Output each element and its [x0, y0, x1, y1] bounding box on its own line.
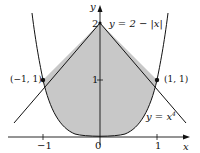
abs-curve-label: y = 2 − |x| [109, 19, 163, 29]
x-axis-label: x [183, 142, 189, 152]
quartic-curve-label: y = x4 [146, 111, 176, 122]
tick-label-x-0: 0 [95, 141, 101, 151]
point-right-label: (1, 1) [164, 75, 188, 84]
quartic-exponent: 4 [172, 110, 176, 117]
tick-label-y-1: 1 [92, 75, 98, 85]
point-left-label: (−1, 1) [10, 75, 42, 84]
quartic-base: y = x [146, 111, 172, 122]
point-apex [98, 21, 101, 24]
y-axis-label: y [90, 2, 96, 12]
tick-label-x-neg1: −1 [37, 141, 52, 151]
tick-label-y-2: 2 [92, 19, 98, 29]
point-right [155, 78, 159, 82]
x-axis-arrow-icon [183, 135, 190, 140]
y-axis-arrow-icon [98, 5, 103, 12]
tick-label-x-1: 1 [155, 141, 161, 151]
